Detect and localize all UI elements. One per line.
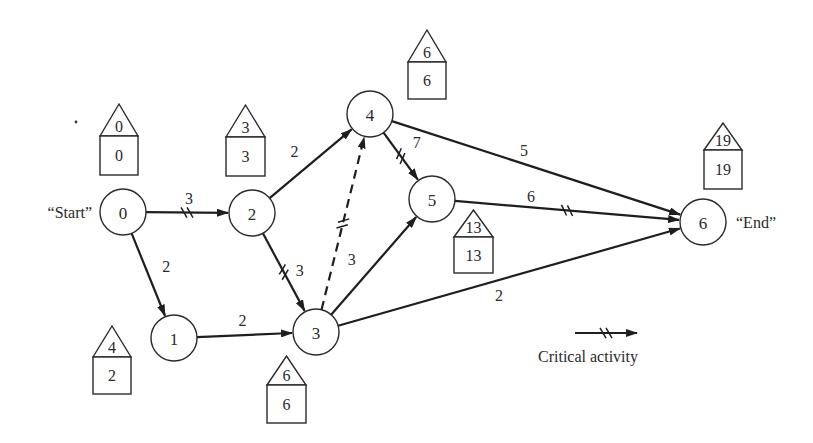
node-number: 0 (119, 204, 128, 223)
event-times-box-0: 00 (100, 104, 138, 175)
earliest-event-time: 2 (108, 367, 116, 384)
activity-arrow (331, 217, 416, 315)
latest-event-time: 3 (242, 119, 250, 136)
activity-arrow (197, 333, 292, 337)
activity-duration: 2 (162, 258, 170, 275)
activity-arrow (146, 212, 228, 213)
node-number: 5 (428, 191, 437, 210)
earliest-event-time: 6 (283, 396, 291, 413)
activity-duration: 5 (520, 142, 528, 159)
event-node-4: 4 (347, 91, 393, 137)
event-node-2: 2 (229, 190, 275, 236)
node-number: 1 (170, 330, 179, 349)
edge-4-5: 7 (384, 133, 421, 180)
edges-layer: 3223273562 (132, 121, 681, 337)
event-times-box-2: 33 (226, 105, 265, 176)
activity-duration: 3 (348, 251, 356, 268)
node-number: 3 (312, 324, 321, 343)
legend: Critical activity (538, 328, 638, 366)
event-node-5: 5 (409, 176, 455, 222)
event-times-box-4: 66 (408, 30, 446, 99)
activity-duration: 3 (185, 190, 193, 207)
node-number: 4 (366, 106, 375, 125)
earliest-event-time: 19 (715, 161, 731, 178)
edge-0-1: 2 (132, 233, 171, 315)
stray-dot (75, 121, 78, 124)
event-times-box-6: 1919 (704, 123, 742, 189)
event-times-box-5: 1313 (454, 210, 493, 273)
edge-2-4: 2 (270, 129, 352, 198)
activity-duration: 2 (239, 312, 247, 329)
edge-1-3: 2 (197, 312, 292, 338)
activity-duration: 7 (413, 134, 421, 151)
event-time-boxes-layer: 004233666613131919 (93, 30, 742, 423)
event-times-box-3: 66 (267, 356, 306, 423)
edge-0-2: 3 (146, 190, 228, 218)
node-number: 2 (248, 205, 257, 224)
activity-duration: 2 (291, 143, 299, 160)
event-node-0: 0“Start” (48, 189, 146, 235)
activity-duration: 6 (527, 188, 535, 205)
latest-event-time: 6 (283, 367, 291, 384)
latest-event-time: 0 (115, 118, 123, 135)
event-times-box-1: 42 (93, 326, 131, 394)
edge-2-3: 3 (263, 233, 305, 311)
activity-arrow (132, 233, 165, 315)
activity-duration: 3 (296, 262, 304, 279)
latest-event-time: 4 (108, 339, 116, 356)
legend-label: Critical activity (538, 348, 638, 366)
diagram-canvas: 3223273562 004233666613131919 0“Start”12… (0, 0, 813, 443)
earliest-event-time: 0 (115, 147, 123, 164)
latest-event-time: 13 (466, 219, 482, 236)
node-number: 6 (699, 214, 708, 233)
end-label: “End” (736, 214, 776, 231)
earliest-event-time: 13 (466, 247, 482, 264)
activity-arrow (270, 129, 352, 198)
earliest-event-time: 6 (423, 72, 431, 89)
edge-3-6: 2 (338, 229, 680, 326)
nodes-layer: 0“Start”123456“End” (48, 91, 776, 361)
activity-duration: 2 (495, 287, 503, 304)
edge-3-5: 3 (331, 217, 416, 315)
latest-event-time: 6 (423, 44, 431, 61)
latest-event-time: 19 (715, 132, 731, 149)
earliest-event-time: 3 (242, 148, 250, 165)
activity-arrow (338, 229, 680, 326)
event-node-3: 3 (293, 309, 339, 355)
start-label: “Start” (48, 204, 92, 221)
event-node-1: 1 (151, 315, 197, 361)
network-diagram: 3223273562 004233666613131919 0“Start”12… (0, 0, 813, 443)
event-node-6: 6“End” (680, 199, 776, 245)
critical-tick-mark (336, 225, 347, 228)
